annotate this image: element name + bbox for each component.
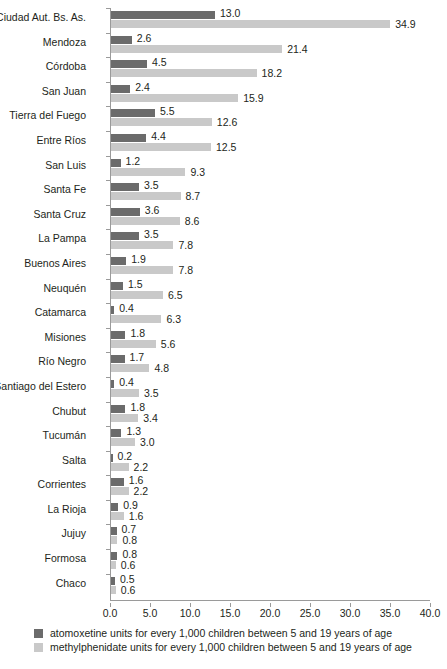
x-axis-tick-label: 30.0: [340, 608, 360, 619]
bar-light: [111, 94, 238, 102]
bar-light: [111, 561, 116, 569]
y-axis-tick: [106, 451, 110, 452]
bar-group: Formosa0.80.6: [110, 549, 430, 574]
legend-item: atomoxetine units for every 1,000 childr…: [34, 628, 412, 639]
category-label: Formosa: [45, 553, 86, 564]
y-axis-tick: [106, 303, 110, 304]
bar-group: San Luis1.29.3: [110, 156, 430, 181]
category-label: Santa Cruz: [33, 209, 86, 220]
bar-light: [111, 315, 161, 323]
y-axis-tick: [106, 352, 110, 353]
y-axis-tick: [106, 574, 110, 575]
bar-group: Misiones1.85.6: [110, 328, 430, 353]
bar-group: Santiago del Estero0.43.5: [110, 377, 430, 402]
category-label: San Juan: [42, 86, 86, 97]
category-label: Mendoza: [43, 37, 86, 48]
value-label: 0.6: [121, 585, 136, 595]
value-label: 18.2: [262, 68, 282, 78]
bar-dark: [111, 527, 117, 535]
value-label: 0.9: [123, 500, 138, 510]
bar-group: Córdoba4.518.2: [110, 57, 430, 82]
bar-light: [111, 20, 390, 28]
y-axis-tick: [106, 156, 110, 157]
value-label: 1.5: [128, 279, 143, 289]
bar-dark: [111, 577, 115, 585]
value-label: 2.2: [134, 462, 149, 472]
y-axis-tick: [106, 524, 110, 525]
bar-dark: [111, 478, 124, 486]
bar-dark: [111, 85, 130, 93]
value-label: 1.8: [130, 402, 145, 412]
category-label: La Pampa: [38, 233, 86, 244]
bar-group: Tierra del Fuego5.512.6: [110, 106, 430, 131]
value-label: 0.6: [121, 560, 136, 570]
value-label: 3.4: [143, 413, 158, 423]
value-label: 3.5: [144, 180, 159, 190]
bar-dark: [111, 36, 132, 44]
bar-dark: [111, 109, 155, 117]
value-label: 5.5: [160, 106, 175, 116]
y-axis-tick: [106, 180, 110, 181]
legend-label: methylphenidate units for every 1,000 ch…: [50, 642, 412, 653]
y-axis-tick: [106, 549, 110, 550]
y-axis-tick: [106, 254, 110, 255]
value-label: 2.2: [134, 486, 149, 496]
bar-light: [111, 364, 149, 372]
value-label: 21.4: [287, 44, 307, 54]
category-label: Tierra del Fuego: [9, 110, 86, 121]
bar-dark: [111, 306, 114, 314]
bar-dark: [111, 11, 215, 19]
bar-dark: [111, 331, 125, 339]
value-label: 0.8: [122, 535, 137, 545]
value-label: 1.9: [131, 254, 146, 264]
value-label: 0.4: [119, 377, 134, 387]
legend-label: atomoxetine units for every 1,000 childr…: [50, 628, 392, 639]
value-label: 34.9: [395, 19, 415, 29]
bar-light: [111, 192, 181, 200]
value-label: 1.7: [130, 352, 145, 362]
value-label: 2.4: [135, 82, 150, 92]
bar-dark: [111, 429, 121, 437]
x-axis-tick-label: 15.0: [220, 608, 240, 619]
legend-swatch-icon: [34, 643, 43, 652]
category-label: San Luis: [45, 160, 86, 171]
bar-dark: [111, 183, 139, 191]
category-label: Chaco: [56, 578, 86, 589]
bar-group: La Pampa3.57.8: [110, 229, 430, 254]
bar-group: San Juan2.415.9: [110, 82, 430, 107]
bar-group: Chaco0.50.6: [110, 574, 430, 599]
bar-dark: [111, 159, 121, 167]
x-axis-tick-label: 0.0: [103, 608, 118, 619]
value-label: 8.7: [186, 191, 201, 201]
y-axis-tick: [106, 106, 110, 107]
bar-light: [111, 389, 139, 397]
bar-light: [111, 586, 116, 594]
bar-dark: [111, 282, 123, 290]
category-label: Salta: [62, 455, 86, 466]
value-label: 6.3: [166, 314, 181, 324]
category-label: La Rioja: [47, 504, 86, 515]
y-axis-tick: [106, 426, 110, 427]
value-label: 1.2: [126, 156, 141, 166]
bar-dark: [111, 134, 146, 142]
bar-group: Tucumán1.33.0: [110, 426, 430, 451]
bar-light: [111, 438, 135, 446]
bar-dark: [111, 405, 125, 413]
value-label: 1.8: [130, 328, 145, 338]
bar-light: [111, 266, 173, 274]
bar-light: [111, 512, 124, 520]
bar-light: [111, 241, 173, 249]
bar-light: [111, 463, 129, 471]
y-axis-tick: [106, 377, 110, 378]
bar-group: Catamarca0.46.3: [110, 303, 430, 328]
bar-light: [111, 340, 156, 348]
y-axis-tick: [106, 475, 110, 476]
y-axis-tick: [106, 33, 110, 34]
value-label: 12.5: [216, 142, 236, 152]
category-label: Ciudad Aut. Bs. As.: [0, 12, 86, 23]
value-label: 0.4: [119, 303, 134, 313]
x-axis-tick-label: 10.0: [180, 608, 200, 619]
bar-dark: [111, 503, 118, 511]
bar-dark: [111, 552, 117, 560]
bar-dark: [111, 454, 113, 462]
